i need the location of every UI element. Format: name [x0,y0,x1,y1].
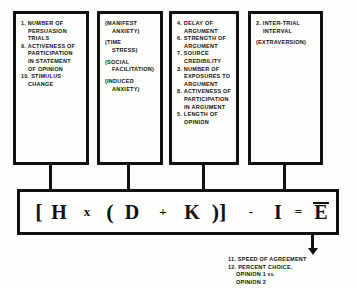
variable-line: TRIALS [21,35,83,43]
variable-line: (MANIFEST [105,20,157,28]
variable-line: ARGUMENT [177,43,233,51]
variable-line: 4. DELAY OF [177,20,233,28]
variable-line: IN ARGUMENT [177,104,233,112]
output-line-versus: vs. [268,272,275,277]
variable-line: 1. NUMBER OF [21,20,83,28]
formula-expression: [Hx(D+K)]-I=E [20,192,348,232]
output-line: 12. PERCENT CHOICE, [228,264,307,272]
variable-line: 5. LENGTH OF [177,111,233,119]
variable-line: 7. SOURCE [177,50,233,58]
variable-line: INTERVAL [256,28,317,36]
formula-token: - [234,204,268,220]
output-line: OPINION 2 [228,279,307,287]
arrow-output-icon [308,248,318,255]
formula-token: + [146,204,180,220]
formula-token: K [180,201,204,224]
variable-box-d: (MANIFESTANXIETY)(TIMESTRESS)(SOCIALFACI… [97,11,163,165]
variable-line: (TIME [105,39,157,47]
formula-token: E [308,201,334,224]
variable-line: OPINION [177,119,233,127]
output-line: OPINION 1 vs. [228,271,307,279]
variable-box-i-lines: 2. INTER-TRIALINTERVAL(EXTRAVERSION) [256,20,317,47]
diagram-canvas: 1. NUMBER OFPERSUASIONTRIALS9. ACTIVENES… [0,0,357,288]
variable-line: 2. INTER-TRIAL [256,20,317,28]
variable-line: ANXIETY) [105,28,157,36]
variable-line: PERSUASION [21,28,83,36]
formula-token: I [268,201,288,224]
formula-token: ( [102,199,118,225]
variable-line: ARGUMENT [177,81,233,89]
variable-line: STRESS) [105,47,157,55]
variable-line: PARTICIPATION [177,96,233,104]
variable-line: 9. ACTIVENESS OF [21,43,83,51]
variable-box-k: 4. DELAY OFARGUMENT6. STRENGTH OFARGUMEN… [169,11,239,165]
variable-box-d-lines: (MANIFESTANXIETY)(TIMESTRESS)(SOCIALFACI… [105,20,157,93]
variable-line: 8. ACTIVENESS OF [177,88,233,96]
variable-line: FACILITATION) [105,66,157,74]
formula-token: = [288,204,308,220]
variable-box-i: 2. INTER-TRIALINTERVAL(EXTRAVERSION) [248,11,323,165]
variable-line: (EXTRAVERSION) [256,39,317,47]
variable-line: PARTICIPATION [21,50,83,58]
variable-box-k-lines: 4. DELAY OFARGUMENT6. STRENGTH OFARGUMEN… [177,20,233,126]
formula-token: D [118,201,146,224]
variable-box-h: 1. NUMBER OFPERSUASIONTRIALS9. ACTIVENES… [13,11,89,165]
variable-line: 10. STIMULUS [21,73,83,81]
variable-line: OF OPINION [21,66,83,74]
variable-line: ARGUMENT [177,28,233,36]
variable-line: EXPOSURES TO [177,73,233,81]
variable-box-h-lines: 1. NUMBER OFPERSUASIONTRIALS9. ACTIVENES… [21,20,83,88]
formula-token: x [72,204,102,220]
variable-line: IN STATEMENT [21,58,83,66]
formula-box: [Hx(D+K)]-I=E [17,189,339,235]
variable-line: 3. NUMBER OF [177,66,233,74]
variable-line: CHANGE [21,81,83,89]
variable-line: ANXIETY) [105,86,157,94]
variable-line: (INDUCED [105,78,157,86]
formula-token: H [46,201,72,224]
formula-token: )] [204,199,234,225]
output-measures-caption: 11. SPEED OF AGREEMENT12. PERCENT CHOICE… [228,256,307,286]
variable-line: (SOCIAL [105,59,157,67]
variable-line: 6. STRENGTH OF [177,35,233,43]
variable-line: CREDIBILITY [177,58,233,66]
output-line: 11. SPEED OF AGREEMENT [228,256,307,264]
formula-overbar: E [314,201,327,224]
formula-token: [ [32,199,46,225]
